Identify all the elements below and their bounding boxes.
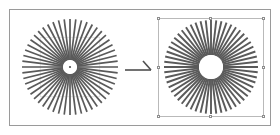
transform-arrow-icon — [124, 57, 154, 79]
resize-handle-bottom-left[interactable] — [157, 115, 160, 118]
transform-arrow — [124, 57, 154, 79]
resize-handle-top-left[interactable] — [157, 17, 160, 20]
resize-handle-top-center[interactable] — [209, 17, 212, 20]
resize-handle-middle-left[interactable] — [157, 66, 160, 69]
left-starburst-panel — [18, 16, 122, 119]
resize-handle-bottom-right[interactable] — [262, 115, 265, 118]
resize-handle-middle-right[interactable] — [262, 66, 265, 69]
right-starburst-panel[interactable] — [158, 18, 264, 117]
selection-bounding-box[interactable] — [158, 18, 264, 117]
source-starburst-graphic — [18, 16, 122, 119]
resize-handle-bottom-center[interactable] — [209, 115, 212, 118]
screenshot-root — [0, 0, 280, 135]
resize-handle-top-right[interactable] — [262, 17, 265, 20]
